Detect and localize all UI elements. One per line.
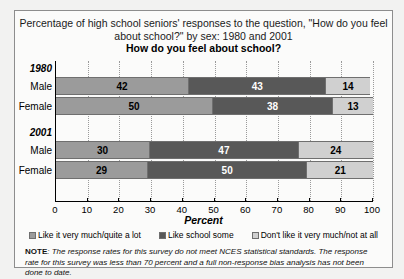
tick-mark bbox=[245, 198, 246, 202]
legend-label: Don't like it very much/not at all bbox=[261, 230, 378, 240]
chart-note: NOTE: The response rates for this survey… bbox=[25, 247, 381, 279]
bar-segment: 47 bbox=[150, 141, 298, 159]
legend-item: Like school some bbox=[159, 230, 234, 240]
plot-inner: 1980Male424314Female5038132001Male304724… bbox=[55, 61, 372, 201]
legend-swatch-icon bbox=[159, 232, 166, 239]
row-label-1980-Female: Female bbox=[19, 101, 52, 112]
legend-swatch-icon bbox=[252, 232, 259, 239]
tick-mark bbox=[340, 198, 341, 202]
plot-area: 1980Male424314Female5038132001Male304724… bbox=[55, 61, 372, 201]
tick-mark bbox=[372, 198, 373, 202]
row-label-2001-Male: Male bbox=[30, 145, 52, 156]
chart-title: Percentage of high school seniors' respo… bbox=[15, 17, 392, 42]
bar-segment: 50 bbox=[56, 97, 213, 115]
bar-segment: 30 bbox=[56, 141, 150, 159]
group-label-1980: 1980 bbox=[30, 63, 52, 74]
chart-legend: Like it very much/quite a lotLike school… bbox=[15, 230, 392, 240]
note-label: NOTE bbox=[25, 247, 47, 256]
tick-mark bbox=[277, 198, 278, 202]
bar-1980-Male: 424314 bbox=[56, 77, 373, 95]
bar-segment: 24 bbox=[298, 141, 373, 159]
bar-2001-Male: 304724 bbox=[56, 141, 373, 159]
legend-item: Don't like it very much/not at all bbox=[252, 230, 378, 240]
tick-mark bbox=[118, 198, 119, 202]
tick-mark bbox=[87, 198, 88, 202]
bar-segment: 50 bbox=[148, 161, 307, 179]
group-label-2001: 2001 bbox=[30, 127, 52, 138]
row-label-1980-Male: Male bbox=[30, 81, 52, 92]
bar-segment: 14 bbox=[325, 77, 369, 95]
gridline bbox=[373, 61, 374, 201]
tick-mark bbox=[309, 198, 310, 202]
tick-mark bbox=[214, 198, 215, 202]
chart-figure: Percentage of high school seniors' respo… bbox=[14, 10, 393, 268]
chart-subtitle: How do you feel about school? bbox=[15, 42, 392, 54]
bar-segment: 43 bbox=[189, 77, 325, 95]
note-text: : The response rates for this survey do … bbox=[25, 247, 367, 277]
bar-segment: 29 bbox=[56, 161, 148, 179]
bar-segment: 13 bbox=[332, 97, 373, 115]
x-axis-title: Percent bbox=[15, 214, 392, 226]
tick-mark bbox=[55, 198, 56, 202]
row-label-2001-Female: Female bbox=[19, 165, 52, 176]
bar-segment: 38 bbox=[213, 97, 332, 115]
bar-2001-Female: 295021 bbox=[56, 161, 373, 179]
tick-mark bbox=[182, 198, 183, 202]
tick-mark bbox=[150, 198, 151, 202]
legend-item: Like it very much/quite a lot bbox=[29, 230, 141, 240]
bar-1980-Female: 503813 bbox=[56, 97, 373, 115]
legend-label: Like school some bbox=[168, 230, 234, 240]
bar-segment: 42 bbox=[56, 77, 189, 95]
bar-segment: 21 bbox=[306, 161, 373, 179]
legend-swatch-icon bbox=[29, 232, 36, 239]
x-axis: 0102030405060708090100 bbox=[55, 201, 372, 202]
legend-label: Like it very much/quite a lot bbox=[38, 230, 141, 240]
